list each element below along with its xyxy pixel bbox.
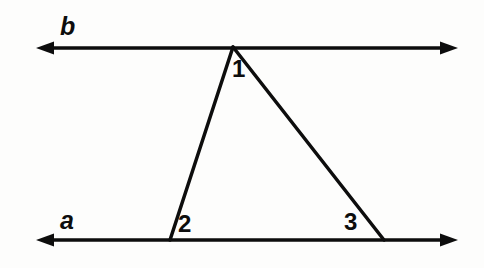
angle-2-label: 2: [178, 212, 191, 236]
line-b-label: b: [60, 14, 75, 39]
arrow-left-icon: [36, 42, 54, 55]
triangle-side-right: [233, 47, 384, 240]
arrow-left-icon: [36, 234, 54, 247]
line-b-group: [36, 42, 458, 55]
angle-3-label: 3: [344, 210, 357, 234]
arrow-right-icon: [440, 42, 458, 55]
geometry-figure: b a 1 2 3: [0, 0, 484, 268]
line-a-label: a: [60, 208, 74, 233]
angle-1-label: 1: [232, 57, 245, 81]
arrow-right-icon: [440, 234, 458, 247]
line-a-group: [36, 234, 458, 247]
